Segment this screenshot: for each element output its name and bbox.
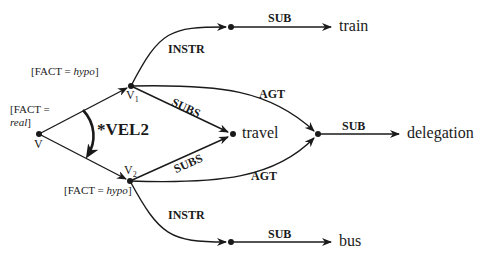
edge-label-v2-agt: AGT (251, 170, 277, 182)
node-v-feature-line1: [FACT = (10, 104, 50, 115)
edge-v1-agt (131, 86, 314, 131)
semantic-graph-diagram: [FACT = real] V [FACT = hypo] V1 V2 [FAC… (0, 0, 499, 262)
feature-text: [FACT = (31, 65, 73, 77)
feature-bracket: ] (95, 65, 99, 77)
node-v1-feature: [FACT = hypo] (31, 66, 99, 77)
feature-value: hypo (106, 184, 127, 196)
node-travel-dot (230, 131, 236, 137)
var-name: V (124, 163, 133, 177)
node-top-dot (228, 24, 234, 30)
edge-label-bottom-sub: SUB (268, 228, 291, 240)
feature-value: real (10, 116, 27, 128)
edge-v1-instr (131, 27, 226, 86)
node-train: train (339, 18, 368, 34)
edge-v2-agt (130, 138, 314, 182)
node-v1-label: V1 (126, 89, 139, 104)
feature-text: [FACT = (10, 103, 50, 115)
edge-label-v1-agt: AGT (259, 88, 285, 100)
edge-v-to-v2 (39, 134, 126, 179)
node-v2-feature: [FACT = hypo] (64, 185, 132, 196)
feature-bracket: ] (27, 116, 31, 128)
feature-bracket: ] (128, 184, 132, 196)
node-bus: bus (339, 233, 361, 249)
node-bottom-dot (228, 239, 234, 245)
node-travel: travel (242, 125, 278, 141)
feature-value: hypo (73, 65, 94, 77)
var-subscript: 2 (133, 170, 137, 179)
node-v-label: V (34, 138, 43, 150)
edge-label-v1-instr: INSTR (168, 43, 205, 55)
feature-text: [FACT = (64, 184, 106, 196)
edge-label-deleg-sub: SUB (342, 120, 365, 132)
var-name: V (126, 88, 135, 102)
node-delegation-junction-dot (315, 131, 321, 137)
node-v2-label: V2 (124, 164, 137, 179)
edge-label-v2-instr: INSTR (168, 209, 205, 221)
rule-label-vel2: *VEL2 (97, 121, 149, 138)
node-delegation: delegation (407, 125, 474, 141)
vel2-rule-arrow (83, 110, 93, 155)
node-v-feature-line2: real] (10, 117, 31, 128)
var-subscript: 1 (135, 95, 139, 104)
edge-label-top-sub: SUB (268, 12, 291, 24)
